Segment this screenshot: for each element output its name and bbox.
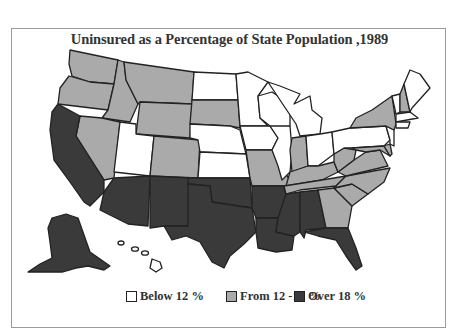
state-hi — [118, 241, 162, 272]
legend-item-below-12: Below 12 % — [126, 289, 204, 304]
state-ks — [198, 152, 250, 178]
state-wy — [136, 102, 192, 138]
state-co — [150, 136, 200, 178]
legend-swatch-gray — [226, 291, 237, 302]
state-fl — [304, 228, 362, 270]
state-ct-ri — [396, 122, 410, 128]
legend-label: Below 12 % — [140, 289, 204, 304]
legend-item-over-18: Over 18 % — [294, 289, 366, 304]
state-ma — [396, 112, 418, 122]
state-oh — [306, 132, 334, 166]
state-ny — [350, 96, 396, 130]
legend-label: Over 18 % — [308, 289, 366, 304]
legend-swatch-white — [126, 291, 137, 302]
state-nm — [150, 176, 190, 228]
state-ak — [28, 214, 110, 272]
state-nd — [192, 72, 238, 100]
legend: Below 12 % From 12 -18 % Over 18 % — [0, 289, 459, 305]
state-mt — [124, 62, 194, 104]
legend-swatch-dark — [294, 291, 305, 302]
state-az — [100, 176, 150, 226]
